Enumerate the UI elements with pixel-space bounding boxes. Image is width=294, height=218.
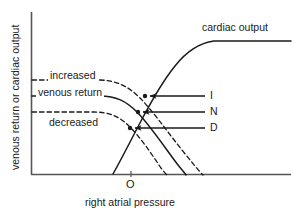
cardiac-output-curve (113, 41, 291, 174)
annotation-arrows (135, 96, 205, 128)
normal-venous-return-curve (32, 96, 186, 175)
normal-venous-return-curve-label: venous return (36, 87, 104, 98)
intersection-point-n (136, 110, 140, 114)
increased-curve-label: increased (48, 70, 98, 81)
x-axis-label: right atrial pressure (85, 197, 175, 208)
y-axis-label: venous return or cardiac output (10, 25, 21, 170)
decreased-curve-label: decreased (47, 117, 100, 128)
intersection-point-d (128, 126, 132, 130)
intersection-point-i (143, 94, 147, 98)
x-axis-origin-label: O (126, 179, 135, 190)
cardiac-output-curve-label: cardiac output (200, 22, 270, 33)
cardiac-function-venous-return-figure: venous return or cardiac output right at… (0, 0, 294, 218)
point-label-n: N (210, 106, 218, 117)
point-label-d: D (210, 122, 218, 133)
point-label-i: I (210, 90, 213, 101)
